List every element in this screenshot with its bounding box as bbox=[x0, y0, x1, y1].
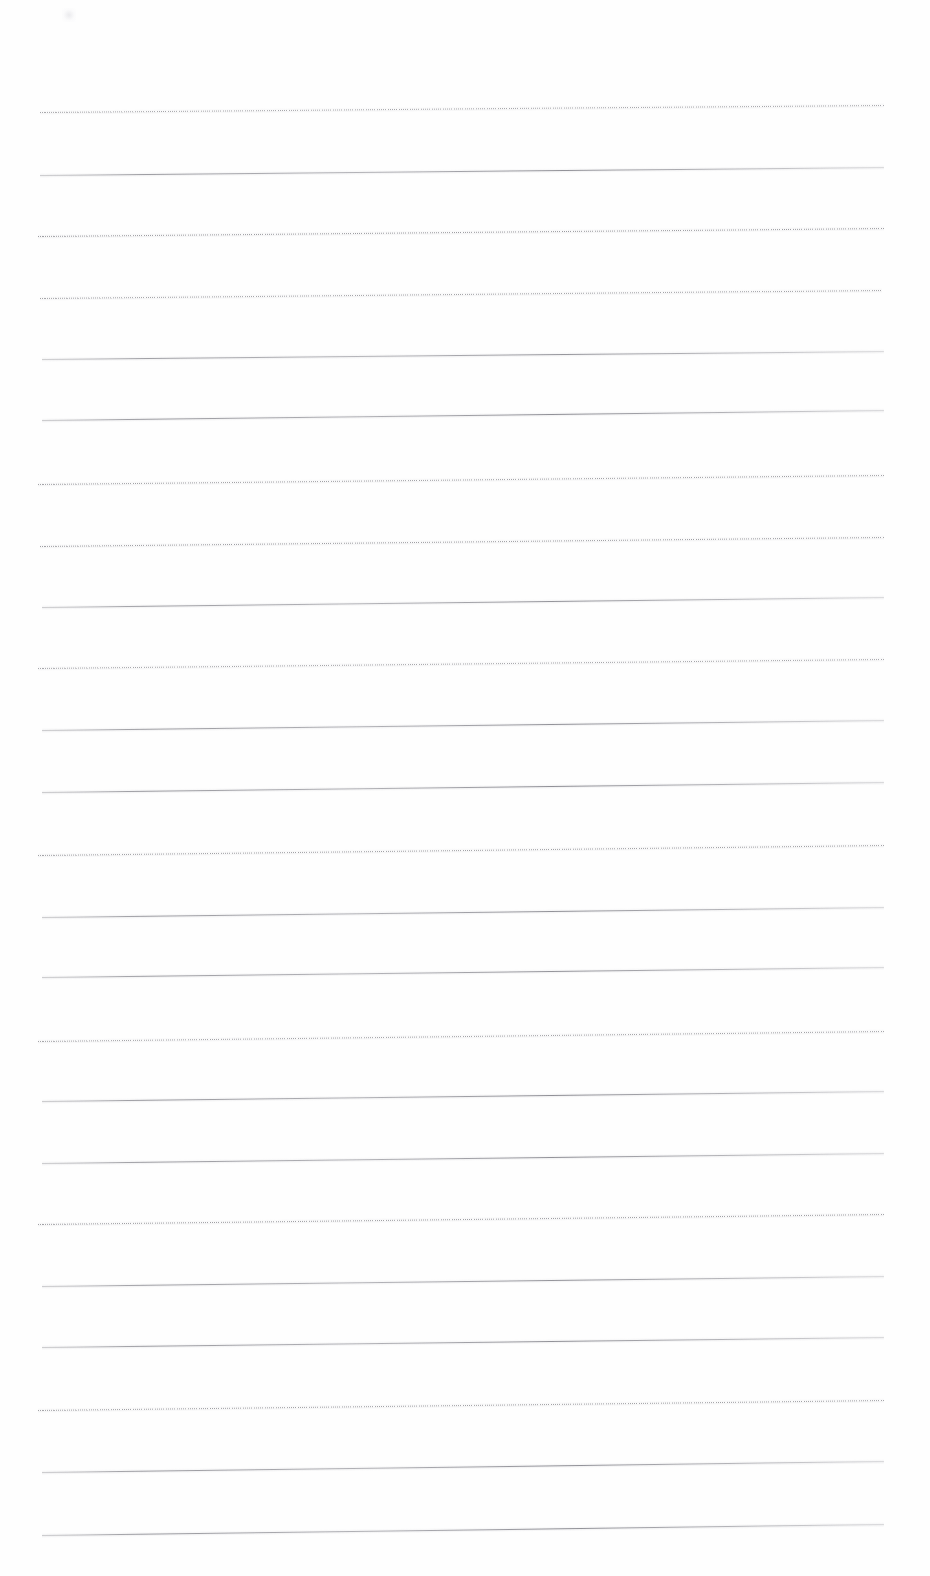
paper-surface bbox=[0, 0, 930, 1576]
scanned-page bbox=[0, 0, 930, 1576]
